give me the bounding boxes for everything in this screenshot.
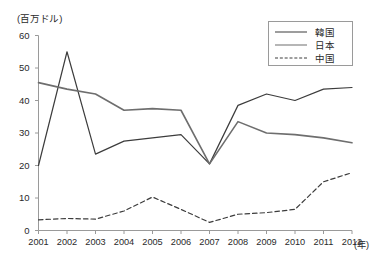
- legend-item-china: 中国: [273, 51, 351, 64]
- legend-item-japan: 日本: [273, 38, 351, 51]
- x-axis-ticks: [39, 231, 353, 235]
- x-tick-label: 2001: [25, 237, 53, 247]
- series-line-korea: [39, 52, 353, 166]
- x-tick-label: 2006: [167, 237, 195, 247]
- legend-label-korea: 韓国: [315, 25, 335, 39]
- legend-swatch-korea: [273, 27, 309, 37]
- line-chart: (百万ドル) 0102030405060 2001200220032004200…: [0, 0, 374, 253]
- y-tick-label: 30: [8, 127, 30, 138]
- x-tick-label: 2009: [253, 237, 281, 247]
- y-tick-label: 10: [8, 192, 30, 203]
- x-tick-label: 2007: [196, 237, 224, 247]
- series-line-china: [39, 173, 353, 223]
- x-tick-label: 2010: [281, 237, 309, 247]
- y-tick-label: 60: [8, 30, 30, 41]
- x-tick-label: 2011: [310, 237, 338, 247]
- x-tick-label: 2003: [82, 237, 110, 247]
- legend-swatch-china: [273, 53, 309, 63]
- y-axis-ticks: [35, 36, 39, 231]
- y-tick-label: 50: [8, 62, 30, 73]
- x-tick-label: 2008: [224, 237, 252, 247]
- y-tick-label: 40: [8, 95, 30, 106]
- x-tick-label: 2004: [110, 237, 138, 247]
- x-tick-label: 2005: [139, 237, 167, 247]
- chart-legend: 韓国 日本 中国: [268, 21, 353, 66]
- legend-item-korea: 韓国: [273, 25, 351, 38]
- x-tick-label: 2002: [53, 237, 81, 247]
- legend-label-japan: 日本: [315, 38, 335, 52]
- legend-swatch-japan: [273, 40, 309, 50]
- data-series-layer: [39, 52, 353, 223]
- legend-label-china: 中国: [315, 51, 335, 65]
- y-tick-label: 20: [8, 160, 30, 171]
- x-axis-unit-label: (年): [354, 237, 369, 251]
- y-tick-label: 0: [8, 225, 30, 236]
- series-line-japan: [39, 83, 353, 164]
